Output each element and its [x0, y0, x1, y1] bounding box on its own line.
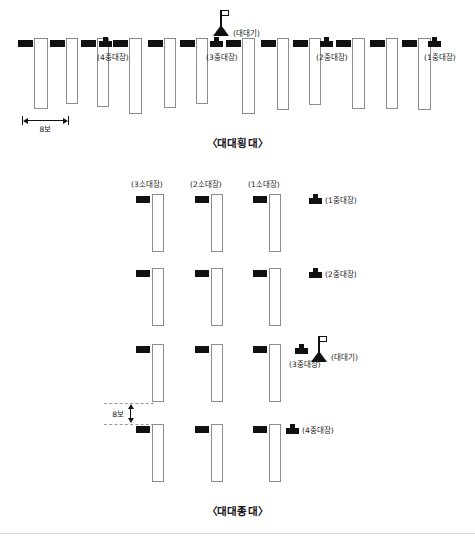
company-commander-2-label: (2중대장) [325, 270, 357, 279]
formation-block [211, 344, 223, 402]
formation-block [386, 38, 398, 109]
guide-bar [370, 40, 385, 47]
formation-block [66, 38, 78, 104]
dimension-extension-line [104, 424, 154, 425]
spacing-dimension-horizontal-label: 8보 [22, 125, 69, 134]
guide-bar [180, 40, 195, 47]
dimension-tick-right [68, 116, 69, 125]
battalion-flag-icon [311, 336, 331, 362]
guide-bar [195, 196, 209, 203]
company-commander-2-label: (2중대장) [316, 53, 348, 62]
company-commander-2-icon [309, 268, 322, 278]
guide-bar [253, 426, 267, 433]
formation-block [269, 424, 281, 482]
formation-block [211, 424, 223, 482]
guide-bar [136, 270, 150, 277]
company-commander-3-icon [295, 344, 308, 354]
guide-bar [81, 40, 96, 47]
formation-block [269, 194, 281, 252]
company-commander-1-label: (1중대장) [325, 196, 357, 205]
spacing-dimension-horizontal: 8보 [22, 116, 69, 125]
guide-bar [195, 426, 209, 433]
company-commander-4-icon [286, 424, 299, 434]
dimension-arrow-up-icon [128, 404, 134, 409]
guide-bar [195, 346, 209, 353]
flag-base-triangle-icon [311, 351, 327, 362]
spacing-dimension-vertical-label: 8보 [112, 409, 124, 418]
guide-bar [18, 40, 33, 47]
company-commander-4-label: (4중대장) [97, 53, 129, 62]
company-commander-2-icon [320, 37, 333, 47]
flag-base-triangle-icon [213, 25, 229, 36]
diagram-page: (대대기) (4중대장) (3중대장) (2중대장) [0, 0, 475, 542]
guide-bar [113, 40, 128, 47]
guide-bar [195, 270, 209, 277]
formation-block [269, 344, 281, 402]
battalion-flag-icon [213, 10, 233, 36]
company-commander-3-label: (3중대장) [206, 53, 238, 62]
formation-block [164, 38, 176, 108]
guide-bar [293, 40, 308, 47]
guide-bar [261, 40, 276, 47]
dimension-arrow-left-icon [23, 118, 28, 124]
battalion-flag-label: (대대기) [331, 353, 358, 362]
formation-block [34, 38, 48, 109]
guide-bar [50, 40, 65, 47]
guide-bar [136, 346, 150, 353]
company-commander-4-label: (4중대장) [302, 426, 334, 435]
spacing-dimension-vertical: 8보 [126, 403, 135, 424]
guide-bar [253, 270, 267, 277]
flag-pennant-icon [221, 10, 229, 16]
formation-block [196, 38, 208, 104]
formation-block [129, 38, 142, 114]
formation-block [152, 344, 164, 402]
page-divider [0, 533, 475, 534]
guide-bar [148, 40, 163, 47]
guide-bar [136, 196, 150, 203]
figure-battalion-line-title: 〈대대횡대〉 [0, 135, 475, 150]
figure-battalion-column-title: 〈대대종대〉 [0, 503, 475, 518]
guide-bar [226, 40, 241, 47]
dimension-arrow-right-icon [63, 118, 68, 124]
formation-block [352, 38, 365, 109]
company-commander-1-label: (1중대장) [424, 53, 456, 62]
company-commander-3-icon [210, 37, 223, 47]
formation-block [97, 38, 109, 107]
company-commander-4-icon [99, 37, 112, 47]
formation-block [309, 38, 321, 105]
platoon-leader-1-label: (1소대장) [248, 180, 280, 189]
platoon-leader-2-label: (2소대장) [190, 180, 222, 189]
guide-bar [336, 40, 351, 47]
guide-bar [253, 196, 267, 203]
battalion-flag-label: (대대기) [233, 29, 260, 38]
formation-block [277, 38, 289, 110]
dimension-arrow-down-icon [128, 418, 134, 423]
company-commander-1-icon [309, 194, 322, 204]
platoon-leader-3-label: (3소대장) [131, 180, 163, 189]
dimension-line [25, 120, 66, 121]
formation-block [211, 194, 223, 252]
formation-block [242, 38, 255, 114]
flag-pennant-icon [319, 336, 327, 342]
formation-block [152, 194, 164, 252]
guide-bar [136, 426, 150, 433]
formation-block [152, 424, 164, 482]
formation-block [152, 268, 164, 326]
formation-block [418, 38, 431, 110]
formation-block [211, 268, 223, 326]
guide-bar [402, 40, 417, 47]
company-commander-1-icon [428, 37, 441, 47]
guide-bar [253, 346, 267, 353]
formation-block [269, 268, 281, 326]
